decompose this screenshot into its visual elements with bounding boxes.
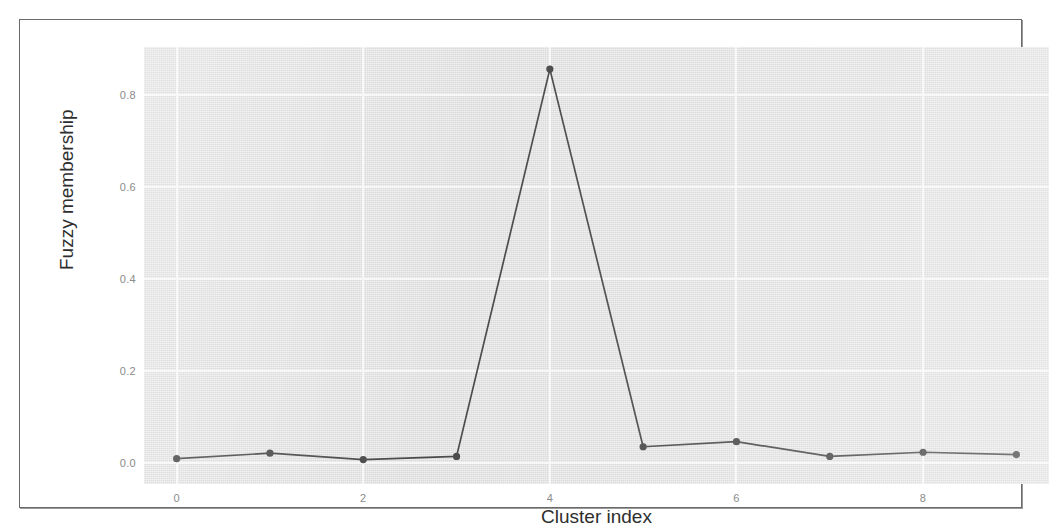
y-axis-tick-labels: 0.00.20.40.60.8 [96, 47, 136, 484]
plot-region: 0.00.20.40.60.8 02468 [144, 47, 1049, 510]
fuzzy-membership-line [177, 69, 1017, 460]
y-tick-label: 0.8 [120, 89, 136, 101]
data-point-marker [1013, 451, 1020, 458]
data-point-marker [266, 450, 273, 457]
data-point-marker [546, 65, 553, 72]
y-tick-label: 0.4 [120, 273, 136, 285]
data-series-layer [144, 47, 1049, 484]
x-axis-title: Cluster index [144, 506, 1049, 528]
x-tick-label: 6 [733, 492, 739, 504]
plot-panel [144, 47, 1049, 484]
data-point-marker [360, 456, 367, 463]
data-point-marker [640, 443, 647, 450]
x-tick-label: 8 [920, 492, 926, 504]
figure-page: 0.00.20.40.60.8 02468 Fuzzy membership C… [0, 0, 1059, 532]
figure-border-frame: 0.00.20.40.60.8 02468 Fuzzy membership C… [19, 19, 1022, 508]
x-tick-label: 2 [360, 492, 366, 504]
data-point-marker [826, 453, 833, 460]
data-point-marker [919, 449, 926, 456]
y-tick-label: 0.0 [120, 457, 136, 469]
y-tick-label: 0.6 [120, 181, 136, 193]
data-point-marker [173, 455, 180, 462]
x-tick-label: 4 [547, 492, 553, 504]
data-point-marker [733, 438, 740, 445]
x-tick-label: 0 [173, 492, 179, 504]
y-axis-title: Fuzzy membership [56, 110, 78, 271]
y-tick-label: 0.2 [120, 365, 136, 377]
data-point-marker [453, 453, 460, 460]
fuzzy-membership-markers [173, 65, 1020, 463]
